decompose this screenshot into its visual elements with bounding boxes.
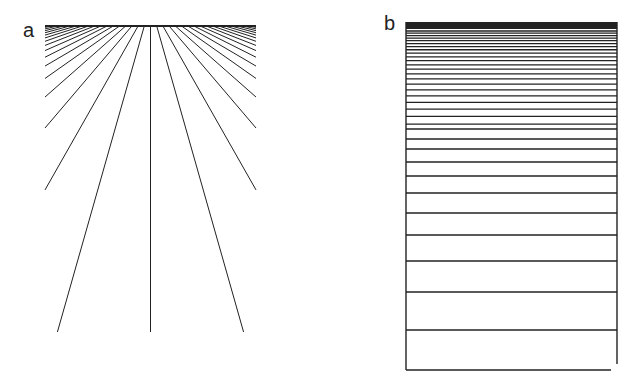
dense-top-band <box>406 22 617 29</box>
figure-canvas <box>0 0 641 384</box>
fan-line <box>157 26 244 332</box>
panel-b-line-diagram <box>406 22 617 370</box>
panel-a-fan-diagram <box>45 26 256 332</box>
fan-line <box>57 26 144 332</box>
